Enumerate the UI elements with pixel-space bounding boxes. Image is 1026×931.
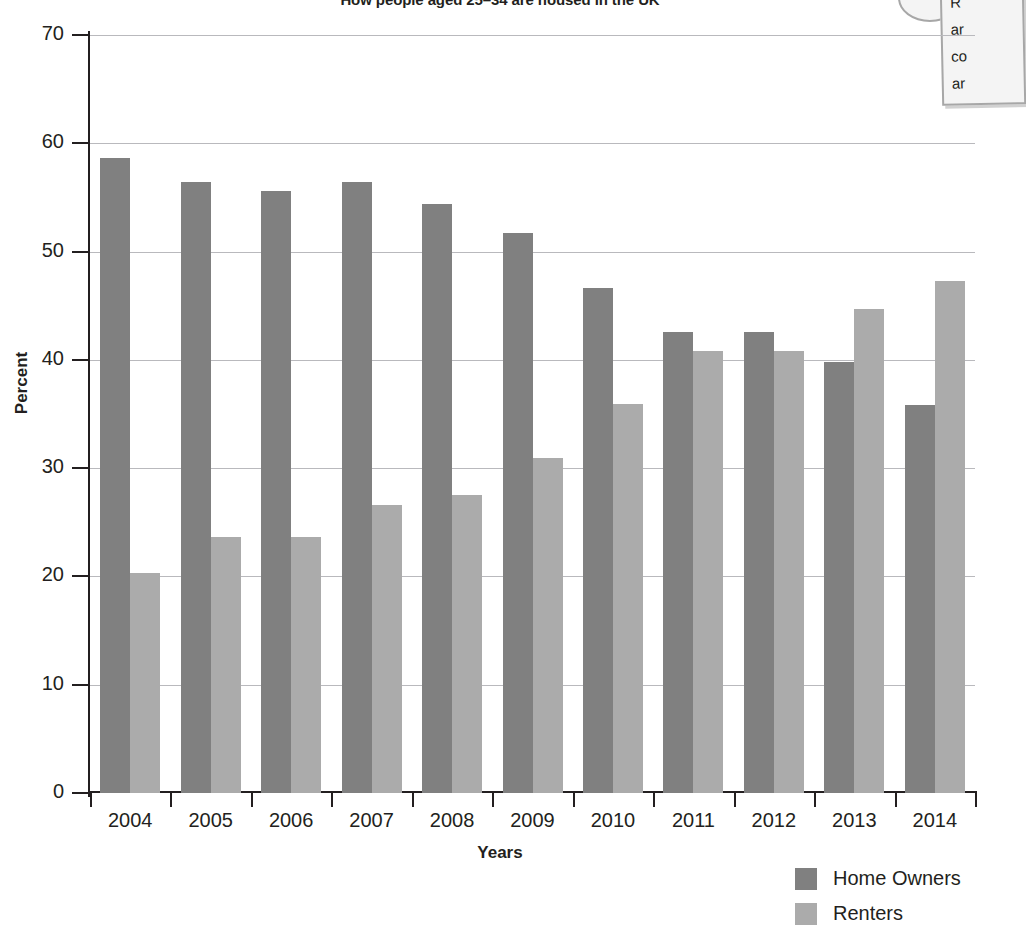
gridline	[90, 360, 975, 361]
x-tick-label: 2012	[729, 809, 819, 832]
bar	[100, 158, 130, 793]
x-tick-mark	[734, 793, 736, 807]
x-tick-label: 2006	[246, 809, 336, 832]
bar	[935, 281, 965, 793]
y-tick-mark	[72, 251, 88, 253]
y-tick-mark	[72, 142, 88, 144]
x-tick-mark	[653, 793, 655, 807]
bar	[342, 182, 372, 793]
y-tick-label: 10	[10, 672, 64, 695]
bar	[372, 505, 402, 793]
y-tick-label: 30	[10, 455, 64, 478]
y-tick-label: 60	[10, 130, 64, 153]
bar	[181, 182, 211, 793]
x-tick-label: 2011	[648, 809, 738, 832]
x-tick-mark	[814, 793, 816, 807]
x-tick-mark	[492, 793, 494, 807]
y-axis-title: Percent	[12, 328, 32, 438]
bar	[261, 191, 291, 793]
gridline	[90, 252, 975, 253]
bar	[130, 573, 160, 793]
legend: Home OwnersRenters	[795, 861, 961, 931]
y-tick-label: 70	[10, 22, 64, 45]
bar	[905, 405, 935, 793]
bar	[452, 495, 482, 793]
bar	[503, 233, 533, 793]
bar	[583, 288, 613, 793]
x-tick-mark	[170, 793, 172, 807]
legend-label: Renters	[833, 902, 903, 925]
x-tick-label: 2007	[327, 809, 417, 832]
bar	[422, 204, 452, 793]
x-tick-mark	[895, 793, 897, 807]
legend-swatch-icon	[795, 868, 817, 890]
bar	[774, 351, 804, 793]
legend-label: Home Owners	[833, 867, 961, 890]
x-tick-mark	[251, 793, 253, 807]
legend-swatch-icon	[795, 903, 817, 925]
x-tick-label: 2008	[407, 809, 497, 832]
x-tick-mark	[331, 793, 333, 807]
y-tick-mark	[72, 34, 88, 36]
x-tick-mark	[975, 793, 977, 807]
gridline	[90, 143, 975, 144]
x-tick-label: 2009	[488, 809, 578, 832]
bar	[211, 537, 241, 793]
bar	[663, 332, 693, 793]
legend-item: Renters	[795, 896, 961, 931]
y-tick-mark	[72, 575, 88, 577]
y-tick-mark	[72, 792, 88, 794]
chart-title: How people aged 25–34 are housed in the …	[0, 0, 1000, 8]
plot-area	[90, 35, 975, 793]
bar	[533, 458, 563, 793]
legend-item: Home Owners	[795, 861, 961, 896]
gridline	[90, 35, 975, 36]
x-tick-mark	[573, 793, 575, 807]
bar	[693, 351, 723, 793]
bar	[744, 332, 774, 793]
x-tick-mark	[412, 793, 414, 807]
bar	[824, 362, 854, 793]
bar	[291, 537, 321, 793]
x-tick-label: 2014	[890, 809, 980, 832]
y-tick-label: 40	[10, 347, 64, 370]
y-tick-mark	[72, 359, 88, 361]
x-axis-title: Years	[0, 843, 1000, 863]
x-tick-label: 2004	[85, 809, 175, 832]
y-tick-label: 20	[10, 563, 64, 586]
bar	[854, 309, 884, 793]
y-tick-mark	[72, 684, 88, 686]
x-tick-label: 2010	[568, 809, 658, 832]
x-tick-label: 2005	[166, 809, 256, 832]
y-tick-label: 50	[10, 239, 64, 262]
y-tick-label: 0	[10, 780, 64, 803]
bar	[613, 404, 643, 793]
y-tick-mark	[72, 467, 88, 469]
x-tick-label: 2013	[809, 809, 899, 832]
x-tick-mark	[90, 793, 92, 807]
